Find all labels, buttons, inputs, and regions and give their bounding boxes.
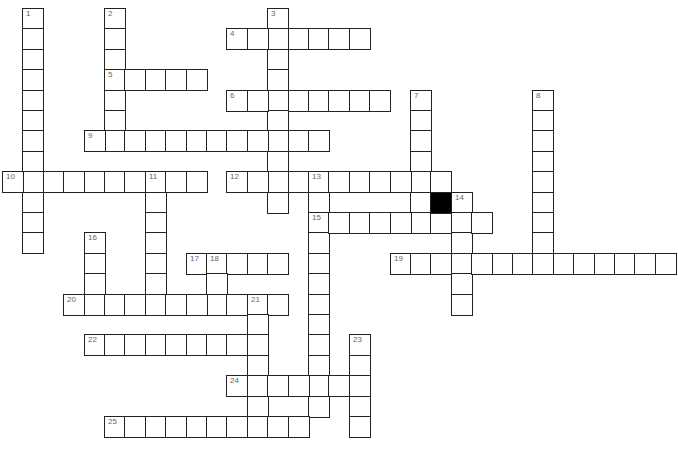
crossword-cell[interactable] bbox=[328, 171, 350, 193]
crossword-cell[interactable] bbox=[104, 28, 126, 50]
crossword-cell[interactable] bbox=[247, 171, 269, 193]
crossword-cell[interactable] bbox=[84, 273, 106, 295]
crossword-cell[interactable] bbox=[349, 355, 371, 377]
crossword-cell[interactable] bbox=[267, 110, 289, 132]
crossword-cell[interactable] bbox=[22, 69, 44, 91]
crossword-cell[interactable]: 13 bbox=[308, 171, 330, 193]
crossword-cell[interactable] bbox=[288, 28, 310, 50]
crossword-cell[interactable] bbox=[124, 69, 146, 91]
crossword-cell[interactable] bbox=[328, 28, 350, 50]
crossword-cell[interactable] bbox=[145, 294, 167, 316]
crossword-cell[interactable] bbox=[22, 110, 44, 132]
crossword-cell[interactable] bbox=[267, 416, 289, 438]
crossword-cell[interactable] bbox=[22, 130, 44, 152]
crossword-cell[interactable] bbox=[349, 90, 371, 112]
crossword-cell[interactable] bbox=[655, 253, 677, 275]
crossword-cell[interactable] bbox=[451, 294, 473, 316]
crossword-cell[interactable] bbox=[145, 334, 167, 356]
crossword-cell[interactable] bbox=[145, 212, 167, 234]
crossword-cell[interactable] bbox=[267, 171, 289, 193]
crossword-cell[interactable] bbox=[226, 253, 248, 275]
crossword-cell[interactable] bbox=[186, 416, 208, 438]
crossword-cell[interactable] bbox=[165, 416, 187, 438]
crossword-cell[interactable] bbox=[104, 171, 126, 193]
crossword-cell[interactable] bbox=[288, 130, 310, 152]
crossword-cell[interactable] bbox=[247, 355, 269, 377]
crossword-cell[interactable] bbox=[84, 171, 106, 193]
crossword-cell[interactable] bbox=[84, 253, 106, 275]
crossword-cell[interactable] bbox=[430, 212, 452, 234]
crossword-cell[interactable] bbox=[308, 396, 330, 418]
crossword-cell[interactable] bbox=[532, 232, 554, 254]
crossword-cell[interactable] bbox=[84, 294, 106, 316]
crossword-cell[interactable] bbox=[267, 49, 289, 71]
crossword-cell[interactable] bbox=[206, 273, 228, 295]
crossword-cell[interactable]: 12 bbox=[226, 171, 248, 193]
crossword-cell[interactable] bbox=[288, 171, 310, 193]
crossword-cell[interactable] bbox=[328, 90, 350, 112]
crossword-cell[interactable] bbox=[247, 334, 269, 356]
crossword-cell[interactable] bbox=[165, 294, 187, 316]
crossword-cell[interactable]: 21 bbox=[247, 294, 269, 316]
crossword-cell[interactable] bbox=[410, 171, 432, 193]
crossword-cell[interactable]: 18 bbox=[206, 253, 228, 275]
crossword-cell[interactable] bbox=[288, 375, 310, 397]
crossword-cell[interactable] bbox=[451, 212, 473, 234]
crossword-cell[interactable]: 8 bbox=[532, 90, 554, 112]
crossword-cell[interactable] bbox=[532, 253, 554, 275]
crossword-cell[interactable] bbox=[22, 212, 44, 234]
crossword-cell[interactable] bbox=[165, 334, 187, 356]
crossword-cell[interactable] bbox=[124, 171, 146, 193]
crossword-cell[interactable] bbox=[267, 192, 289, 214]
crossword-cell[interactable]: 2 bbox=[104, 8, 126, 30]
crossword-cell[interactable] bbox=[532, 151, 554, 173]
crossword-cell[interactable] bbox=[553, 253, 575, 275]
crossword-cell[interactable] bbox=[145, 69, 167, 91]
crossword-cell[interactable] bbox=[63, 171, 85, 193]
crossword-cell[interactable] bbox=[104, 334, 126, 356]
crossword-cell[interactable] bbox=[349, 212, 371, 234]
crossword-cell[interactable] bbox=[308, 334, 330, 356]
crossword-cell[interactable] bbox=[308, 192, 330, 214]
crossword-cell[interactable] bbox=[145, 253, 167, 275]
crossword-cell[interactable] bbox=[267, 253, 289, 275]
crossword-cell[interactable] bbox=[43, 171, 65, 193]
crossword-cell[interactable] bbox=[226, 334, 248, 356]
crossword-cell[interactable]: 10 bbox=[2, 171, 24, 193]
crossword-cell[interactable] bbox=[471, 253, 493, 275]
crossword-cell[interactable] bbox=[430, 171, 452, 193]
crossword-cell[interactable]: 3 bbox=[267, 8, 289, 30]
crossword-cell[interactable] bbox=[22, 151, 44, 173]
crossword-cell[interactable] bbox=[226, 294, 248, 316]
crossword-cell[interactable] bbox=[165, 69, 187, 91]
crossword-cell[interactable] bbox=[308, 90, 330, 112]
crossword-cell[interactable] bbox=[247, 314, 269, 336]
crossword-cell[interactable] bbox=[308, 232, 330, 254]
crossword-cell[interactable] bbox=[532, 212, 554, 234]
crossword-cell[interactable]: 17 bbox=[186, 253, 208, 275]
crossword-cell[interactable] bbox=[308, 375, 330, 397]
crossword-cell[interactable] bbox=[369, 212, 391, 234]
crossword-cell[interactable]: 20 bbox=[63, 294, 85, 316]
crossword-cell[interactable] bbox=[124, 130, 146, 152]
crossword-cell[interactable] bbox=[22, 192, 44, 214]
crossword-cell[interactable] bbox=[22, 28, 44, 50]
crossword-cell[interactable] bbox=[512, 253, 534, 275]
crossword-cell[interactable] bbox=[206, 334, 228, 356]
crossword-cell[interactable] bbox=[104, 110, 126, 132]
crossword-cell[interactable] bbox=[308, 355, 330, 377]
crossword-cell[interactable] bbox=[410, 110, 432, 132]
crossword-cell[interactable] bbox=[247, 253, 269, 275]
crossword-cell[interactable] bbox=[267, 151, 289, 173]
crossword-cell[interactable] bbox=[267, 28, 289, 50]
crossword-cell[interactable]: 24 bbox=[226, 375, 248, 397]
crossword-cell[interactable] bbox=[410, 130, 432, 152]
crossword-cell[interactable] bbox=[308, 130, 330, 152]
crossword-cell[interactable]: 4 bbox=[226, 28, 248, 50]
crossword-cell[interactable] bbox=[226, 130, 248, 152]
crossword-cell[interactable] bbox=[145, 192, 167, 214]
crossword-cell[interactable] bbox=[349, 375, 371, 397]
crossword-cell[interactable] bbox=[104, 130, 126, 152]
crossword-cell[interactable]: 25 bbox=[104, 416, 126, 438]
crossword-cell[interactable] bbox=[124, 416, 146, 438]
